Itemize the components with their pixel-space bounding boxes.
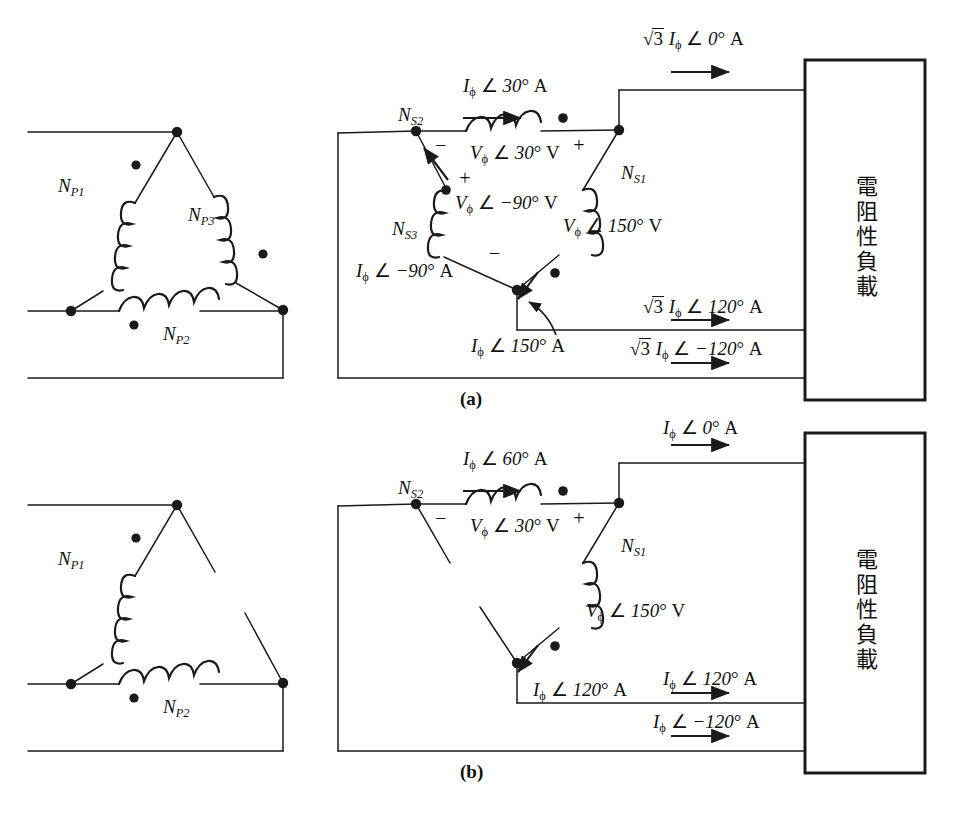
caption-a: (a) (460, 388, 482, 410)
phase-current-a-minus90: Iϕ ∠ −90° A (356, 261, 453, 283)
polarity-minus-b-ns2: − (434, 508, 448, 528)
phase-current-a-150: Iϕ ∠ 150° A (471, 336, 565, 358)
polarity-minus-ns3: − (488, 243, 502, 263)
line-current-a-minus120: √3 Iϕ ∠ −120° A (630, 338, 763, 361)
panel-a-primary-dots (66, 127, 288, 330)
node-dot (512, 658, 522, 668)
polarity-dot (558, 486, 568, 496)
polarity-minus-ns2: − (434, 135, 448, 155)
phase-current-b-120: Iϕ ∠ 120° A (533, 680, 627, 702)
polarity-plus-ns3: + (458, 168, 472, 188)
polarity-dot (441, 185, 451, 195)
polarity-plus-ns2: + (572, 135, 586, 155)
node-dot (512, 285, 522, 295)
panel-a-primary-circuit (28, 132, 283, 378)
winding-label-ns3: NS3 (392, 219, 417, 241)
polarity-plus-b-ns2: + (572, 508, 586, 528)
panel-b-primary-dots (66, 500, 288, 703)
phase-voltage-a-30: Vϕ ∠ 30° V (470, 143, 560, 165)
winding-label-b-np1: NP1 (58, 549, 85, 571)
winding-label-b-ns2: NS2 (398, 478, 423, 500)
node-dot (66, 306, 76, 316)
phase-current-b-60: Iϕ ∠ 60° A (463, 449, 548, 471)
polarity-dot (129, 320, 138, 329)
line-current-b-minus120: Iϕ ∠ −120° A (653, 712, 760, 734)
winding-label-ns1: NS1 (621, 163, 646, 185)
node-dot (614, 125, 624, 135)
phase-voltage-a-150: Vϕ ∠ 150° V (563, 216, 662, 238)
polarity-dot (550, 268, 560, 278)
phase-current-a-30: Iϕ ∠ 30° A (463, 76, 548, 98)
polarity-dot (550, 641, 560, 651)
polarity-dot (558, 113, 568, 123)
line-current-a-0: √3 Iϕ ∠ 0° A (643, 28, 744, 51)
winding-label-np1: NP1 (58, 176, 85, 198)
polarity-dot (258, 249, 267, 258)
load-label-a: 電阻性負載 (853, 175, 875, 300)
line-current-a-120: √3 Iϕ ∠ 120° A (643, 296, 763, 319)
node-dot (172, 500, 182, 510)
node-dot (278, 678, 288, 688)
winding-label-np3: NP3 (188, 205, 215, 227)
line-current-b-120: Iϕ ∠ 120° A (663, 669, 757, 691)
panel-b-primary-circuit (28, 505, 283, 751)
load-label-b: 電阻性負載 (853, 548, 875, 673)
caption-b: (b) (460, 761, 483, 783)
winding-label-b-np2: NP2 (163, 697, 190, 719)
node-dot (66, 679, 76, 689)
node-dot (614, 498, 624, 508)
polarity-dot (131, 160, 140, 169)
node-dot (278, 305, 288, 315)
line-current-b-0: Iϕ ∠ 0° A (663, 418, 738, 440)
winding-label-np2: NP2 (163, 324, 190, 346)
node-dot (172, 127, 182, 137)
polarity-dot (129, 693, 138, 702)
polarity-dot (131, 533, 140, 542)
winding-label-ns2: NS2 (398, 105, 423, 127)
phase-voltage-b-30: Vϕ ∠ 30° V (470, 516, 560, 538)
phase-current-arrow (518, 645, 538, 672)
winding-label-b-ns1: NS1 (621, 536, 646, 558)
figure-canvas: NP1 NP2 NP3 NS2 NS1 NS3 − + + − Vϕ ∠ 30°… (0, 0, 955, 817)
phase-current-arrow (518, 272, 538, 299)
phase-voltage-b-150: Vϕ ∠ 150° V (586, 601, 685, 623)
phase-voltage-a-minus90: Vϕ ∠ −90° V (455, 193, 558, 215)
